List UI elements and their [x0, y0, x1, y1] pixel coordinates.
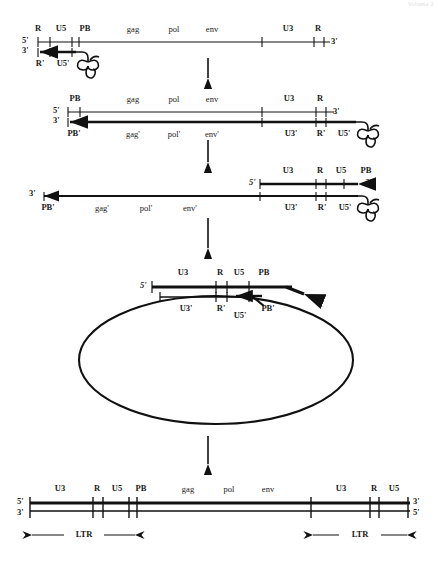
stage1-label-env: env	[206, 25, 218, 34]
stage2-label-gag: gag	[127, 95, 139, 104]
stage5-ticks	[30, 497, 408, 518]
stage1-label-pol: pol	[169, 25, 180, 34]
stage1-label-Rprime: R'	[36, 59, 45, 68]
trna-cloverleaf-icon	[76, 52, 99, 78]
stage3-label-PB: PB	[361, 166, 372, 175]
reverse-transcription-diagram: R U5 PB gag pol env U3 R 5' 3' 3' R' U5'…	[0, 0, 438, 561]
stage5-label-U5r: U5	[389, 484, 399, 493]
stage2-label-PBprime: PB'	[67, 129, 80, 138]
stage5-label-U3r: U3	[336, 484, 346, 493]
stage4-label-U5prime: U5'	[234, 311, 247, 320]
stage2-five-prime: 5'	[53, 106, 60, 115]
stage5-label-U3: U3	[55, 484, 65, 493]
stage5-left-three-prime: 3'	[17, 508, 24, 517]
stage2-three-prime: 3'	[333, 107, 340, 116]
stage2-label-pol: pol	[169, 95, 180, 104]
stage4-label-U3prime: U3'	[180, 304, 193, 313]
stage5-label-U5: U5	[112, 484, 122, 493]
stage3-label-PBprime: PB'	[41, 203, 54, 212]
trna-cloverleaf-icon	[356, 196, 379, 221]
stage4-label-PB: PB	[259, 268, 270, 277]
stage4-label-U5: U5	[234, 268, 244, 277]
stage5-label-PB: PB	[136, 484, 147, 493]
stage3-label-U5: U5	[336, 166, 346, 175]
stage5-right-five-prime: 5'	[413, 508, 420, 517]
stage2-label-envprime: env'	[205, 130, 219, 139]
stage1-label-R: R	[35, 24, 41, 33]
stage3-label-envprime: env'	[183, 204, 197, 213]
stage5-label-R: R	[94, 484, 100, 493]
stage1-label-PB: PB	[80, 24, 91, 33]
stage2-bottom-three-prime: 3'	[53, 116, 60, 125]
stage-1-group	[38, 37, 330, 78]
diagram-vector-layer	[0, 0, 438, 561]
ltr-right-label: LTR	[352, 530, 369, 539]
stage2-label-polprime: pol'	[168, 130, 180, 139]
stage4-label-R: R	[217, 268, 223, 277]
stage4-five-prime: 5'	[140, 281, 147, 290]
stage1-bottom-three-prime: 3'	[22, 46, 29, 55]
stage2-label-U3: U3	[284, 94, 294, 103]
stage3-label-Rprime: R'	[318, 203, 327, 212]
stage5-label-gag: gag	[182, 485, 194, 494]
stage2-label-Rprime: R'	[317, 129, 326, 138]
stage2-label-R: R	[317, 94, 323, 103]
stage-4-group	[79, 276, 353, 424]
stage1-five-prime: 5'	[22, 36, 29, 45]
stage2-label-U3prime: U3'	[285, 129, 298, 138]
stage3-bottom-three-prime: 3'	[29, 189, 36, 198]
stage4-label-PBprime: PB'	[261, 304, 274, 313]
stage1-label-U3: U3	[283, 24, 293, 33]
ltr-left-label: LTR	[76, 530, 93, 539]
stage1-three-prime: 3'	[331, 37, 338, 46]
stage5-left-five-prime: 5'	[17, 497, 24, 506]
stage1-label-R2: R	[315, 24, 321, 33]
stage2-label-U5prime: U5'	[338, 129, 351, 138]
stage5-right-three-prime: 3'	[413, 497, 420, 506]
stage5-label-Rr: R	[371, 484, 377, 493]
stage5-label-env: env	[262, 485, 274, 494]
stage4-label-Rprime: R'	[217, 304, 226, 313]
stage2-label-env: env	[206, 95, 218, 104]
stage3-label-U3: U3	[283, 166, 293, 175]
stage4-label-U3: U3	[178, 268, 188, 277]
stage3-label-U5prime: U5'	[339, 203, 352, 212]
stage3-five-prime: 5'	[249, 178, 256, 187]
stage1-label-U5prime: U5'	[57, 59, 70, 68]
stage3-label-polprime: pol'	[140, 204, 152, 213]
circular-intermediate	[79, 296, 353, 424]
stage3-label-R: R	[317, 166, 323, 175]
stage3-label-gagprime: gag'	[95, 204, 109, 213]
duplex-mask	[150, 276, 310, 294]
stage5-label-pol: pol	[224, 485, 235, 494]
trna-cloverleaf-icon	[356, 122, 379, 147]
stage2-label-PB: PB	[70, 94, 81, 103]
stage-3-group	[44, 179, 379, 221]
stage3-three-prime: 3'	[365, 178, 372, 187]
stage2-label-gagprime: gag'	[126, 130, 140, 139]
stage1-label-gag: gag	[127, 25, 139, 34]
stage3-label-U3prime: U3'	[285, 203, 298, 212]
stage1-label-U5: U5	[56, 24, 66, 33]
